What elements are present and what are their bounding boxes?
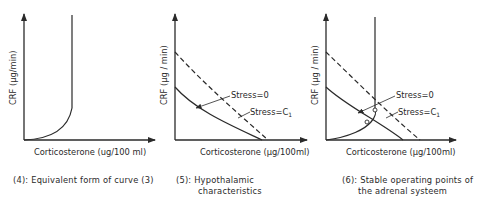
stress-c1-text: Stress=C <box>398 107 436 117</box>
stress-0-pointer <box>196 96 230 108</box>
operating-point-stress-c1 <box>373 108 377 112</box>
stress-c1-label: Stress=C1 <box>398 107 440 118</box>
panel-4: CRF (µg/min) Corticosterone (ug/100 ml) … <box>8 14 155 185</box>
stress-0-curve <box>326 87 403 140</box>
x-axis-label: Corticosterone (ug/100 ml) <box>34 147 146 157</box>
adrenal-curve <box>24 15 72 140</box>
y-axis-label: CRF (µg / min) <box>310 45 320 105</box>
caption-line-1: (5): Hypothalamic <box>176 175 254 185</box>
stress-0-label: Stress=0 <box>231 90 269 100</box>
stress-0-label: Stress=0 <box>396 90 434 100</box>
y-axis-label: CRF (µg / min) <box>159 45 169 105</box>
caption-line-2: the adrenal systeem <box>358 186 447 196</box>
stress-c1-label: Stress=C1 <box>250 107 292 118</box>
panel-6: Stress=0 Stress=C1 CRF (µg / min) Cortic… <box>310 14 474 196</box>
x-axis-label: Corticosterone (µg/100ml) <box>200 147 310 157</box>
operating-point-stress-0 <box>365 120 369 124</box>
subscript: 1 <box>436 111 440 118</box>
x-axis-label: Corticosterone (µg/100ml) <box>346 147 456 157</box>
y-axis-label: CRF (µg/min) <box>8 51 18 105</box>
caption: (4): Equivalent form of curve (3) <box>13 175 154 185</box>
caption-line-1: (6): Stable operating points of <box>342 175 474 185</box>
stress-c1-pointer <box>386 112 398 118</box>
stress-c1-text: Stress=C <box>250 107 288 117</box>
subscript: 1 <box>288 111 292 118</box>
panel-5: Stress=0 Stress=C1 CRF (µg / min) Cortic… <box>159 14 310 196</box>
figure: CRF (µg/min) Corticosterone (ug/100 ml) … <box>0 0 490 205</box>
caption-line-2: characteristics <box>198 186 262 196</box>
